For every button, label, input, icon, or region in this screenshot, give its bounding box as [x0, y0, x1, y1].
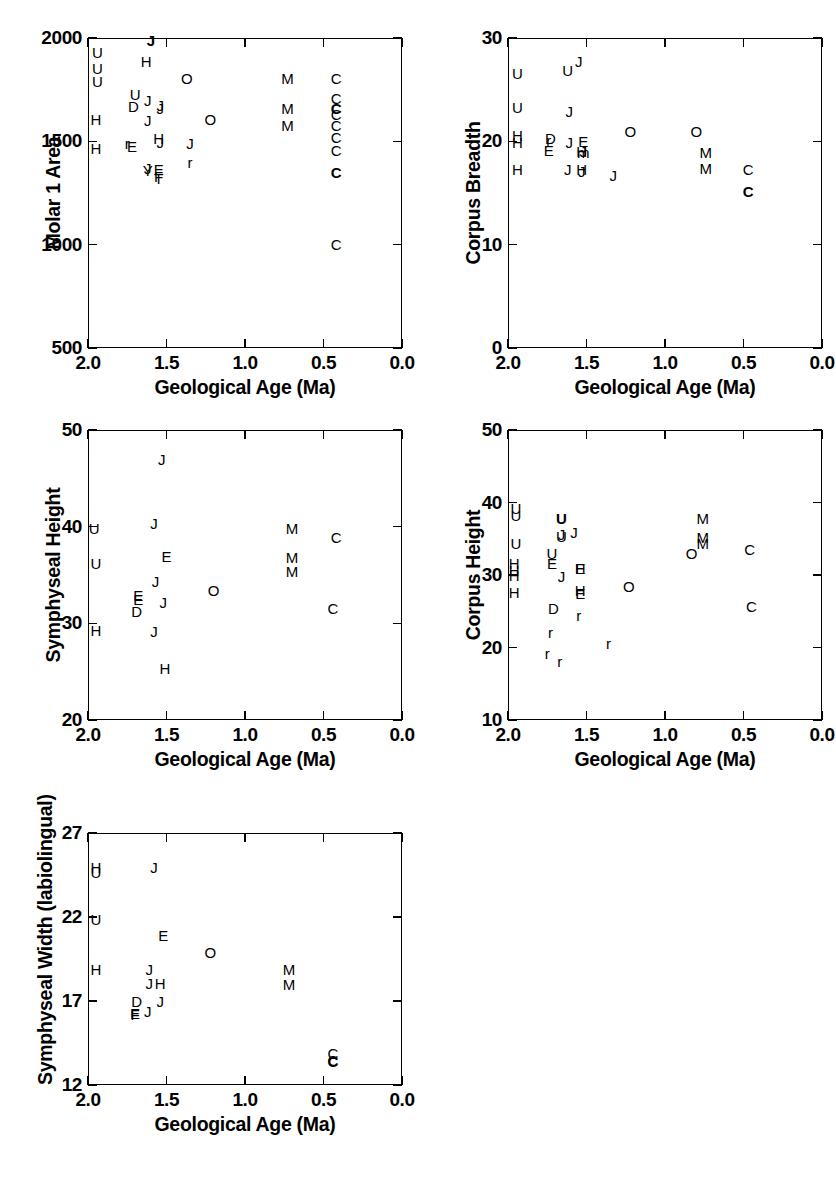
- data-point-corpus-breadth-6: J: [575, 53, 583, 68]
- data-point-symphyseal-height-13: O: [208, 582, 220, 597]
- xtick-symphyseal-height-4: [401, 430, 403, 439]
- data-point-symphyseal-width-labiolingual-3: H: [90, 962, 101, 977]
- data-point-corpus-height-27: M: [696, 530, 709, 545]
- data-point-corpus-breadth-22: M: [700, 144, 713, 159]
- data-point-symphyseal-width-labiolingual-6: J: [145, 962, 153, 977]
- data-point-molar-1-area-12: J: [156, 101, 164, 116]
- ytick-corpus-height-2: [508, 574, 517, 576]
- xtick-bottom-corpus-height-4: [821, 711, 823, 720]
- data-point-corpus-height-15: H: [575, 561, 586, 576]
- xtick-label-symphyseal-height-0: 2.0: [58, 724, 118, 746]
- xtick-bottom-symphyseal-width-labiolingual-4: [401, 1076, 403, 1085]
- data-point-molar-1-area-13: E: [127, 138, 137, 153]
- ytick-symphyseal-height-1: [88, 623, 97, 625]
- data-point-corpus-breadth-3: H: [512, 135, 523, 150]
- ytick-corpus-height-1: [508, 647, 517, 649]
- data-point-corpus-breadth-4: H: [512, 162, 523, 177]
- ytick-label-corpus-breadth-0: 0: [442, 337, 502, 359]
- data-point-corpus-height-29: C: [744, 541, 755, 556]
- xtick-symphyseal-width-labiolingual-1: [166, 833, 168, 842]
- ytick-right-symphyseal-width-labiolingual-2: [393, 916, 402, 918]
- data-point-corpus-breadth-24: C: [743, 162, 754, 177]
- xtick-bottom-corpus-breadth-3: [743, 339, 745, 348]
- xtick-label-corpus-height-3: 0.5: [714, 724, 774, 746]
- data-point-corpus-breadth-12: J: [564, 162, 572, 177]
- data-point-molar-1-area-32: C: [331, 107, 342, 122]
- ytick-label-corpus-height-0: 10: [442, 709, 502, 731]
- xtick-symphyseal-height-1: [166, 430, 168, 439]
- xtick-bottom-molar-1-area-4: [401, 339, 403, 348]
- xtick-label-corpus-breadth-0: 2.0: [478, 352, 538, 374]
- data-point-molar-1-area-2: U: [92, 74, 103, 89]
- xtick-corpus-height-2: [664, 430, 666, 439]
- data-point-symphyseal-height-10: J: [160, 595, 168, 610]
- data-point-corpus-breadth-25: C: [743, 183, 754, 198]
- data-point-symphyseal-height-16: M: [286, 564, 299, 579]
- data-point-corpus-height-9: U: [556, 528, 567, 543]
- xtick-label-molar-1-area-1: 1.5: [137, 352, 197, 374]
- xtick-label-corpus-breadth-3: 0.5: [714, 352, 774, 374]
- data-point-molar-1-area-19: E: [154, 161, 164, 176]
- xtick-corpus-breadth-1: [586, 38, 588, 47]
- data-point-corpus-height-11: U: [547, 546, 558, 561]
- ytick-right-symphyseal-width-labiolingual-0: [393, 1084, 402, 1086]
- xtick-label-symphyseal-height-4: 0.0: [372, 724, 432, 746]
- data-point-corpus-height-19: r: [576, 607, 581, 622]
- ytick-corpus-breadth-2: [508, 141, 517, 143]
- data-point-corpus-breadth-15: m: [577, 144, 590, 159]
- xtick-bottom-symphyseal-height-2: [244, 711, 246, 720]
- data-point-symphyseal-height-4: J: [150, 515, 158, 530]
- data-point-corpus-height-14: E: [575, 560, 585, 575]
- ytick-label-corpus-height-4: 50: [442, 419, 502, 441]
- data-point-corpus-breadth-8: D: [545, 131, 556, 146]
- xtick-corpus-breadth-2: [664, 38, 666, 47]
- plot-frame-corpus-height: [508, 430, 822, 720]
- xtick-corpus-height-4: [821, 430, 823, 439]
- xtick-bottom-corpus-breadth-0: [507, 339, 509, 348]
- data-point-molar-1-area-35: C: [331, 142, 342, 157]
- ytick-symphyseal-height-0: [88, 719, 97, 721]
- ytick-label-symphyseal-width-labiolingual-1: 17: [22, 990, 82, 1012]
- ytick-label-molar-1-area-1: 1000: [22, 234, 82, 256]
- data-point-symphyseal-height-5: E: [161, 548, 171, 563]
- data-point-molar-1-area-37: C: [331, 237, 342, 252]
- data-point-molar-1-area-0: U: [92, 45, 103, 60]
- data-point-corpus-breadth-13: E: [578, 134, 588, 149]
- data-point-symphyseal-width-labiolingual-11: E: [130, 1005, 140, 1020]
- data-point-corpus-height-18: D: [548, 600, 559, 615]
- data-point-symphyseal-height-7: E: [133, 588, 143, 603]
- data-point-corpus-breadth-14: J: [580, 143, 588, 158]
- data-point-molar-1-area-24: J: [186, 135, 194, 150]
- data-point-molar-1-area-26: M: [281, 71, 294, 86]
- data-point-corpus-breadth-18: J: [578, 164, 586, 179]
- plot-frame-corpus-breadth: [508, 38, 822, 348]
- xtick-bottom-symphyseal-height-0: [87, 711, 89, 720]
- ytick-label-corpus-breadth-3: 30: [442, 27, 502, 49]
- data-point-molar-1-area-1: U: [92, 60, 103, 75]
- ytick-molar-1-area-2: [88, 141, 97, 143]
- data-point-corpus-height-26: M: [696, 510, 709, 525]
- chart-panel-symphyseal-width-labiolingual: 121722272.01.51.00.50.0Geological Age (M…: [0, 0, 836, 1195]
- ytick-label-symphyseal-width-labiolingual-3: 27: [22, 822, 82, 844]
- xtick-molar-1-area-4: [401, 38, 403, 47]
- ytick-right-symphyseal-width-labiolingual-1: [393, 1000, 402, 1002]
- xtick-bottom-corpus-height-0: [507, 711, 509, 720]
- ytick-label-molar-1-area-3: 2000: [22, 27, 82, 49]
- data-point-molar-1-area-17: J: [144, 160, 152, 175]
- xtick-molar-1-area-2: [244, 38, 246, 47]
- ytick-right-corpus-height-2: [813, 574, 822, 576]
- xtick-bottom-corpus-breadth-4: [821, 339, 823, 348]
- data-point-symphyseal-width-labiolingual-14: O: [205, 945, 217, 960]
- xtick-bottom-corpus-breadth-1: [586, 339, 588, 348]
- ytick-label-symphyseal-width-labiolingual-0: 12: [22, 1074, 82, 1096]
- data-point-corpus-breadth-5: U: [562, 63, 573, 78]
- xtick-symphyseal-width-labiolingual-3: [323, 833, 325, 842]
- chart-panel-corpus-height: 10203040502.01.51.00.50.0Geological Age …: [0, 0, 836, 1195]
- data-point-molar-1-area-34: C: [331, 130, 342, 145]
- xtick-bottom-corpus-breadth-2: [664, 339, 666, 348]
- xtick-molar-1-area-1: [166, 38, 168, 47]
- data-point-molar-1-area-20: F: [154, 169, 163, 184]
- xtick-label-symphyseal-height-1: 1.5: [137, 724, 197, 746]
- xaxis-title-symphyseal-height: Geological Age (Ma): [28, 748, 462, 771]
- data-point-corpus-height-3: H: [509, 556, 520, 571]
